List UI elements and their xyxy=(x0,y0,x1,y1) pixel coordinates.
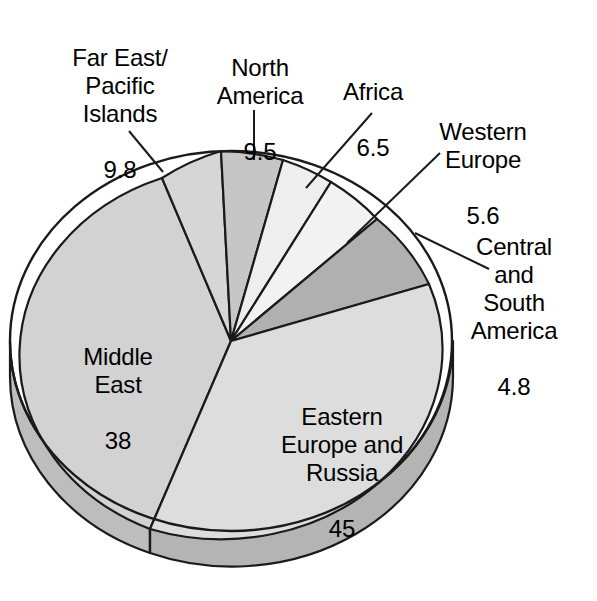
pie-label-central-and-south-america: Central and South America 4.8 xyxy=(440,205,588,430)
pie-label-western-europe-name: Western Europe xyxy=(408,118,558,174)
pie-label-middle-east: Middle East 38 xyxy=(38,315,198,483)
pie-label-eastern-europe-and-russia: Eastern Europe and Russia 45 xyxy=(252,375,432,572)
pie-label-central-and-south-america-value: 4.8 xyxy=(440,373,588,401)
pie-label-far-east-pacific-islands-name: Far East/ Pacific Islands xyxy=(35,44,205,128)
pie-label-north-america-name: North America xyxy=(195,54,325,110)
pie-label-eastern-europe-and-russia-name: Eastern Europe and Russia xyxy=(252,403,432,487)
pie-label-central-and-south-america-name: Central and South America xyxy=(440,233,588,345)
pie-label-far-east-pacific-islands: Far East/ Pacific Islands 9.8 xyxy=(35,16,205,213)
pie-label-middle-east-value: 38 xyxy=(38,427,198,455)
pie-label-eastern-europe-and-russia-value: 45 xyxy=(252,515,432,543)
pie-chart: Far East/ Pacific Islands 9.8 North Amer… xyxy=(0,0,597,601)
pie-label-far-east-pacific-islands-value: 9.8 xyxy=(35,156,205,184)
pie-label-north-america-value: 9.5 xyxy=(195,138,325,166)
pie-label-middle-east-name: Middle East xyxy=(38,343,198,399)
pie-label-north-america: North America 9.5 xyxy=(195,26,325,194)
